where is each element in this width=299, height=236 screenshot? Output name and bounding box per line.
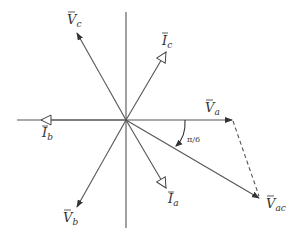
phasor-ic-arrow xyxy=(126,52,166,120)
angle-arc xyxy=(176,120,185,146)
svg-text:Ib: Ib xyxy=(41,125,53,142)
phasor-vac-arrow xyxy=(126,120,259,198)
phasor-vb-arrow xyxy=(77,120,126,207)
label-ia: Ia xyxy=(167,191,179,208)
phasor-ia-arrow xyxy=(126,120,166,188)
svg-text:Vac: Vac xyxy=(266,196,286,213)
label-vac: Vac xyxy=(266,196,286,213)
phasor-vc-arrow xyxy=(77,33,126,120)
angle-label: π/6 xyxy=(187,135,200,144)
svg-text:Vb: Vb xyxy=(63,210,78,227)
label-ib: Ib xyxy=(41,125,53,142)
svg-text:Ia: Ia xyxy=(167,191,179,208)
svg-text:Ic: Ic xyxy=(161,33,172,50)
label-ic: Ic xyxy=(161,33,172,50)
label-vb: Vb xyxy=(63,210,78,227)
label-va: Va xyxy=(205,100,220,117)
svg-text:Va: Va xyxy=(205,100,220,117)
label-vc: Vc xyxy=(67,12,81,29)
svg-text:Vc: Vc xyxy=(67,12,81,29)
phasor-diagram: π/6 Vc Ic Va Ib Vb Ia Vac xyxy=(0,0,299,236)
